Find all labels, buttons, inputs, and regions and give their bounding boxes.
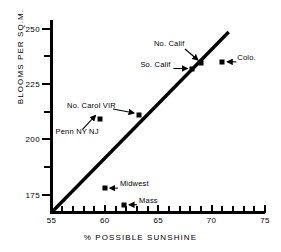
data-point-marker xyxy=(190,66,195,71)
data-point-label: Midwest xyxy=(120,179,149,188)
data-point-marker xyxy=(102,186,107,191)
data-point-marker xyxy=(122,202,127,207)
data-point-label: No. Calif xyxy=(154,39,185,48)
data-point-marker xyxy=(137,113,142,118)
data-point-label: Penn NY NJ xyxy=(56,127,99,136)
data-point-label: So. Calif xyxy=(140,60,170,69)
data-point-marker xyxy=(220,59,225,64)
data-point-label: Colo. xyxy=(237,53,256,62)
data-point-label: Mass xyxy=(139,196,158,205)
trendline xyxy=(0,0,281,252)
data-point-marker xyxy=(198,60,203,65)
data-point-label: No. Carol VIR xyxy=(67,101,116,110)
scatter-chart: BLOOMS PER SQ.M. % POSSIBLE SUNSHINE 175… xyxy=(0,0,281,252)
data-point-marker xyxy=(97,117,102,122)
